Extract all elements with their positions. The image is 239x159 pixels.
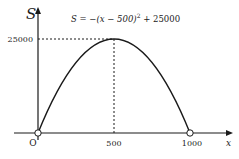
origin-open-point [35,130,41,136]
x-axis-label: x [226,138,231,148]
chart-title: S = −(x − 500)2 + 25000 [71,12,180,24]
y-axis-label: S [26,5,36,23]
x-tick-1000: 1000 [182,139,202,148]
root-1000-open-point [187,130,193,136]
x-tick-500: 500 [106,139,121,148]
y-tick-25000: 25000 [8,35,33,44]
parabola-chart: S S = −(x − 500)2 + 25000 25000 O 500 10… [0,0,239,159]
parabola-curve [38,39,190,133]
x-axis-arrow-icon [226,130,233,136]
title-tail: + 25000 [140,14,180,24]
title-main: S = −(x − 500) [71,14,137,24]
origin-label: O [29,138,36,148]
